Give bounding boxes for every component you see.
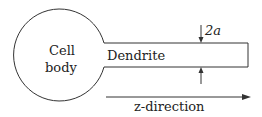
dendrite-label: Dendrite: [107, 48, 165, 63]
radius-arrowhead-bottom: [199, 67, 204, 73]
cell-body-label-line2: body: [45, 60, 77, 75]
radius-label: 2a: [205, 23, 221, 38]
z-direction-arrowhead: [242, 94, 251, 100]
radius-arrowhead-top: [199, 37, 204, 43]
direction-label: z-direction: [134, 99, 205, 114]
cell-body-label-line1: Cell: [49, 43, 75, 58]
